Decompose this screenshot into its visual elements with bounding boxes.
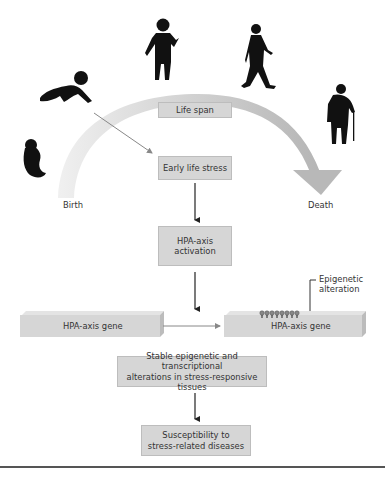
life-span-label: Life span — [176, 105, 214, 116]
susceptibility-line2: stress-related diseases — [148, 441, 244, 452]
gene-left-label: HPA-axis gene — [63, 321, 123, 331]
walking-adult-icon — [241, 24, 276, 89]
crawling-baby-icon — [40, 71, 92, 103]
hpa-activation-box: HPA-axis activation — [158, 226, 232, 266]
epigenetic-alteration-label: Epigenetic alteration — [319, 274, 363, 294]
susceptibility-box: Susceptibility to stress-related disease… — [141, 425, 251, 456]
elderly-with-cane-icon — [327, 84, 355, 144]
death-label: Death — [308, 200, 333, 210]
cane-icon — [353, 112, 354, 141]
stable-line2: alterations in stress-responsive tissues — [118, 372, 266, 393]
stable-line1: Stable epigenetic and transcriptional — [118, 351, 266, 372]
gene-right-label: HPA-axis gene — [271, 321, 331, 331]
hpa-activation-line2: activation — [174, 246, 215, 257]
child-icon — [145, 19, 179, 81]
arc-arrowhead-icon — [293, 170, 342, 195]
hpa-activation-line1: HPA-axis — [177, 236, 213, 247]
fetus-icon — [24, 139, 46, 177]
birth-label: Birth — [63, 200, 83, 210]
susceptibility-line1: Susceptibility to — [162, 430, 229, 441]
life-span-box: Life span — [158, 102, 232, 118]
early-life-stress-label: Early life stress — [163, 163, 227, 174]
stable-alterations-box: Stable epigenetic and transcriptional al… — [117, 356, 267, 387]
early-life-stress-box: Early life stress — [158, 156, 232, 180]
bottom-rule — [0, 466, 385, 468]
